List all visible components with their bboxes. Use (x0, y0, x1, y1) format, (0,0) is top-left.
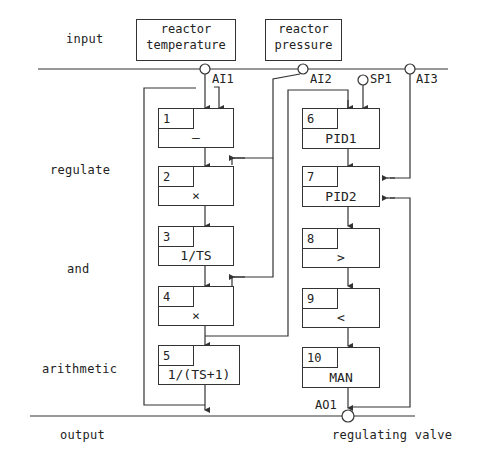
label-input: input (66, 32, 104, 46)
block-function: MAN (303, 370, 379, 385)
label-output: output (60, 428, 105, 442)
block-4-multiply: 4 × (158, 286, 234, 326)
sp1-terminal (358, 75, 368, 85)
block-number: 9 (303, 289, 338, 309)
block-1-subtract: 1 — (158, 108, 234, 148)
block-3-integrator: 3 1/TS (158, 226, 234, 266)
source-reactor-pressure: reactor pressure (265, 19, 342, 61)
block-5-lag: 5 1/(TS+1) (158, 345, 240, 385)
block-number: 10 (303, 348, 338, 368)
pin-sp1-label: SP1 (370, 72, 392, 86)
block-function: 1/(TS+1) (159, 367, 239, 382)
block-number: 6 (303, 109, 338, 129)
label-regulating-valve: regulating valve (332, 428, 452, 442)
block-function: × (159, 308, 233, 323)
block-9-low-select: 9 < (302, 288, 380, 328)
source-temperature-line1: reactor (139, 21, 233, 37)
block-function: 1/TS (159, 248, 233, 263)
label-and: and (67, 262, 90, 276)
block-number: 5 (159, 346, 194, 366)
block-number: 4 (159, 287, 194, 307)
ai2-terminal (298, 64, 308, 74)
ao1-terminal (342, 410, 354, 422)
block-function: > (303, 250, 379, 265)
source-pressure-line2: pressure (268, 37, 339, 53)
pin-ai3-label: AI3 (416, 72, 438, 86)
control-block-diagram: input regulate and arithmetic output rea… (0, 0, 480, 471)
pin-ai1-label: AI1 (212, 72, 234, 86)
ai1-terminal (200, 64, 210, 74)
block-number: 3 (159, 227, 194, 247)
block-8-high-select: 8 > (302, 228, 380, 268)
block-number: 1 (159, 109, 194, 129)
wiring-lines (0, 0, 480, 471)
block-function: × (159, 188, 233, 203)
pin-ao1-label: AO1 (315, 398, 337, 412)
block-function: — (159, 130, 233, 145)
ai3-terminal (405, 64, 415, 74)
block-number: 7 (303, 167, 338, 187)
block-10-manual: 10 MAN (302, 347, 380, 388)
block-7-pid2: 7 PID2 (302, 166, 380, 207)
source-pressure-line1: reactor (268, 21, 339, 37)
block-6-pid1: 6 PID1 (302, 108, 380, 149)
block-2-multiply: 2 × (158, 166, 234, 206)
pin-ai2-label: AI2 (310, 72, 332, 86)
block-function: < (303, 310, 379, 325)
block-function: PID2 (303, 189, 379, 204)
label-arithmetic: arithmetic (42, 362, 117, 376)
label-regulate: regulate (50, 163, 110, 177)
source-reactor-temperature: reactor temperature (136, 19, 236, 61)
source-temperature-line2: temperature (139, 37, 233, 53)
block-function: PID1 (303, 131, 379, 146)
block-number: 2 (159, 167, 194, 187)
block-number: 8 (303, 229, 338, 249)
